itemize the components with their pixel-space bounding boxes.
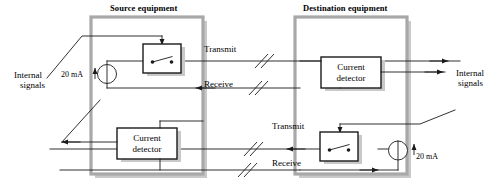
source-transmit-switch	[143, 44, 185, 76]
destination-detector-label-line1: Current	[321, 62, 381, 73]
current-value-bottom-label: 20 mA	[416, 152, 438, 162]
internal-signals-left-line1: Internal	[14, 70, 42, 80]
transmit-bottom-label: Transmit	[272, 121, 304, 131]
destination-detector-label-line2: detector	[321, 73, 381, 84]
panel-title-destination: Destination equipment	[303, 3, 388, 13]
current-loop-diagram: Source equipment Destination equipment I…	[0, 0, 502, 187]
top-cable-break-marks	[249, 54, 274, 95]
receive-bottom-label: Receive	[272, 158, 301, 168]
internal-signals-right-line1: Internal	[456, 68, 484, 78]
transmit-top-label: Transmit	[204, 44, 236, 54]
internal-signals-right-line2: signals	[458, 78, 483, 88]
internal-signals-left-line2: signals	[20, 80, 45, 90]
source-detector-label-line2: detector	[117, 144, 177, 155]
destination-transmit-switch	[320, 132, 362, 164]
receive-top-label: Receive	[204, 79, 233, 89]
panel-title-source: Source equipment	[110, 3, 177, 13]
source-detector-label-line1: Current	[117, 133, 177, 144]
bottom-cable-break-marks	[238, 142, 263, 177]
current-value-top-label: 20 mA	[61, 70, 83, 80]
